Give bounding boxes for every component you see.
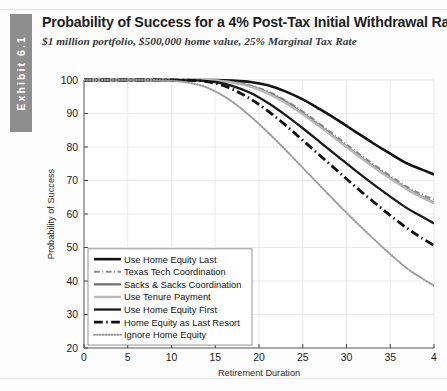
y-tick-label: 60 [66,209,78,220]
x-tick-label: 20 [253,352,265,363]
x-tick-label: 30 [341,352,353,363]
chart-canvas: 2030405060708090100051015202530354 Retir… [42,62,447,379]
legend-label-1: Texas Tech Coordination [124,267,226,277]
y-tick-label: 100 [61,75,79,86]
x-tick-label: 35 [384,352,396,363]
chart-legend: Use Home Equity LastTexas Tech Coordinat… [88,249,252,345]
legend-label-3: Use Tenure Payment [124,292,211,302]
y-tick-label: 30 [66,309,78,320]
y-axis-title: Probability of Success [46,168,56,259]
x-tick-label: 0 [81,352,87,363]
page-title: Probability of Success for a 4% Post-Tax… [42,14,443,31]
legend-label-4: Use Home Equity First [124,305,217,315]
y-tick-label: 40 [66,276,78,287]
x-tick-label: 4 [431,352,437,363]
chart-header: Probability of Success for a 4% Post-Tax… [42,14,443,49]
page-top-rule [0,9,447,10]
legend-label-0: Use Home Equity Last [124,255,217,265]
legend-label-6: Ignore Home Equity [124,330,207,340]
x-tick-label: 10 [166,352,178,363]
page-subtitle: $1 million portfolio, $500,000 home valu… [42,34,443,49]
x-tick-label: 15 [209,352,221,363]
exhibit-page: Exhibit 6.1 Probability of Success for a… [0,0,447,391]
y-tick-label: 20 [66,343,78,354]
exhibit-number-label: Exhibit 6.1 [15,35,27,111]
legend-label-5: Home Equity as Last Resort [124,318,240,328]
line-chart: 2030405060708090100051015202530354 Retir… [42,62,447,379]
y-tick-label: 50 [66,242,78,253]
x-tick-label: 25 [297,352,309,363]
x-axis-title: Retirement Duration [218,368,300,378]
legend-label-2: Sacks & Sacks Coordination [124,280,241,290]
x-tick-label: 5 [125,352,131,363]
exhibit-number-tab: Exhibit 6.1 [10,14,32,132]
y-tick-label: 90 [66,108,78,119]
y-tick-label: 80 [66,142,78,153]
y-tick-label: 70 [66,175,78,186]
